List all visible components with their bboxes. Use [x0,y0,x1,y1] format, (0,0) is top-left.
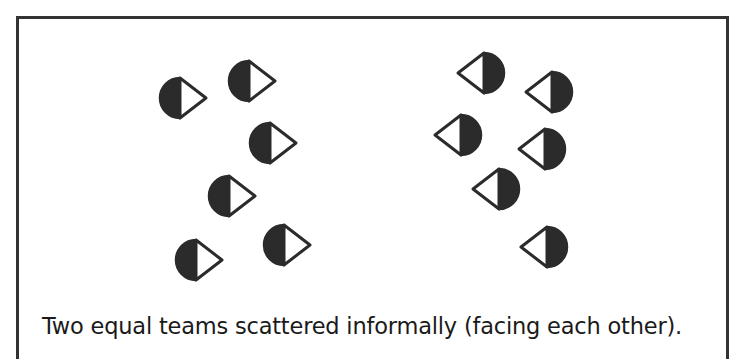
half-filled-circle-with-arrow-icon [176,240,222,280]
half-filled-circle-with-arrow-icon [473,169,519,209]
half-filled-circle-with-arrow-icon [229,61,275,101]
half-filled-circle-with-arrow-icon [521,227,567,267]
half-filled-circle-with-arrow-icon [209,176,255,216]
half-filled-circle-with-arrow-icon [250,123,296,163]
half-filled-circle-with-arrow-icon [519,129,565,169]
half-filled-circle-with-arrow-icon [435,115,481,155]
left-team [160,61,310,280]
right-team [435,53,572,267]
diagram-caption: Two equal teams scattered informally (fa… [42,313,682,339]
half-filled-circle-with-arrow-icon [264,225,310,265]
half-filled-circle-with-arrow-icon [160,78,206,118]
half-filled-circle-with-arrow-icon [458,53,504,93]
half-filled-circle-with-arrow-icon [526,72,572,112]
